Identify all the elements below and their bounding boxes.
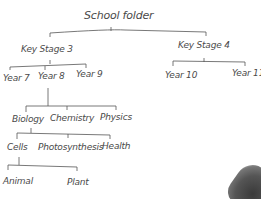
node-biology: Biology bbox=[12, 114, 44, 124]
node-key-stage-4: Key Stage 4 bbox=[178, 40, 230, 50]
node-year-11: Year 11 bbox=[232, 68, 261, 78]
node-physics: Physics bbox=[100, 112, 132, 122]
node-plant: Plant bbox=[67, 177, 89, 187]
node-year-9: Year 9 bbox=[76, 69, 103, 79]
node-key-stage-3: Key Stage 3 bbox=[21, 44, 73, 54]
node-photosynthesis: Photosynthesis bbox=[38, 142, 103, 152]
node-year-10: Year 10 bbox=[165, 70, 197, 80]
node-health: Health bbox=[102, 141, 130, 151]
node-animal: Animal bbox=[3, 176, 33, 186]
tree-connectors bbox=[0, 0, 261, 199]
node-cells: Cells bbox=[7, 142, 28, 152]
node-school-folder: School folder bbox=[84, 9, 153, 22]
node-year-7: Year 7 bbox=[3, 73, 30, 83]
node-chemistry: Chemistry bbox=[50, 113, 94, 123]
node-year-8: Year 8 bbox=[38, 71, 65, 81]
